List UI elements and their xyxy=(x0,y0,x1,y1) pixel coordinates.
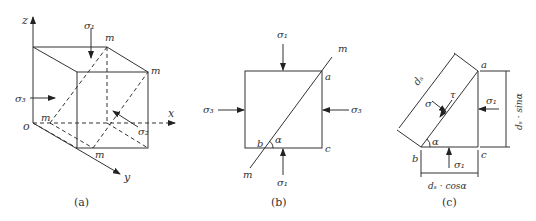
sigma2-arrow xyxy=(113,111,138,127)
plane-m xyxy=(250,57,332,168)
x-label: x xyxy=(168,107,175,120)
origin-label: o xyxy=(23,120,30,133)
angle-arc xyxy=(427,139,430,147)
point-c-label: c xyxy=(325,143,331,154)
angle-alpha-label: α xyxy=(432,136,439,147)
point-b-label: b xyxy=(412,153,418,164)
point-a-label: a xyxy=(325,71,331,82)
tau-label: τ xyxy=(450,89,456,100)
stress-diagrams: z x y o m m m m σ₁ σ₃ σ₂ (a) σ₁ σ₁ σ₃ σ₃… xyxy=(0,0,536,221)
y-label: y xyxy=(123,171,131,184)
ds-dimension xyxy=(399,54,455,128)
angle-alpha-label: α xyxy=(275,134,282,145)
element-square xyxy=(245,71,322,148)
sigma1-top-label: σ₁ xyxy=(277,29,288,40)
ds-sin-label: dₛ · sinα xyxy=(514,93,524,130)
sigma2-label: σ₂ xyxy=(138,126,149,137)
panel-b xyxy=(218,44,349,175)
sigma1-label: σ₁ xyxy=(84,20,95,31)
ds-cos-label: dₛ · cosα xyxy=(428,181,467,191)
m-label-bottom: m xyxy=(243,169,252,180)
sigma1-right-label: σ₁ xyxy=(486,95,497,106)
point-c-label: c xyxy=(481,149,487,160)
m-label-top: m xyxy=(105,32,114,43)
m-label-left: m xyxy=(41,112,50,123)
z-label: z xyxy=(21,14,28,27)
point-b-label: b xyxy=(257,138,263,149)
panel-a-labels: z x y o m m m m σ₁ σ₃ σ₂ (a) xyxy=(15,14,175,209)
plane-m xyxy=(50,47,107,123)
sigma3-label: σ₃ xyxy=(15,93,26,104)
point-a-label: a xyxy=(481,59,487,70)
sigma-normal-arrow xyxy=(432,101,446,112)
sigma-label: σ xyxy=(425,98,433,109)
caption-a: (a) xyxy=(74,196,89,209)
m-label-top: m xyxy=(338,43,347,54)
sigma1-bottom-label: σ₁ xyxy=(454,159,465,170)
sigma3-right-label: σ₃ xyxy=(351,104,362,115)
caption-b: (b) xyxy=(271,196,287,209)
m-label-bottom: m xyxy=(95,149,104,160)
sigma3-left-label: σ₃ xyxy=(203,104,214,115)
sigma1-bottom-label: σ₁ xyxy=(277,177,288,188)
panel-b-labels: σ₁ σ₁ σ₃ σ₃ m m a b c α (b) xyxy=(203,29,362,209)
caption-c: (c) xyxy=(442,196,457,209)
panel-c-labels: dₛ σ τ σ₁ σ₁ a b c α dₛ · sinα dₛ · cosα… xyxy=(411,59,524,209)
ds-label: dₛ xyxy=(411,73,426,87)
m-label-right: m xyxy=(151,65,160,76)
wedge-triangle xyxy=(421,71,478,147)
